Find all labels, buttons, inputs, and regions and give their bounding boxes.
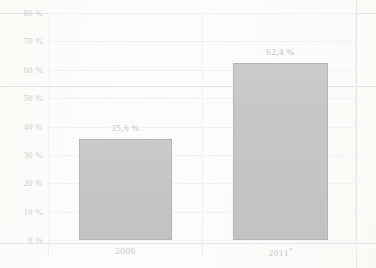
bar-2006: [79, 139, 172, 240]
y-axis-tick-label: 50 %: [9, 93, 43, 103]
y-axis-tick-label: 40 %: [9, 122, 43, 132]
bar-chart: 0 %10 %20 %30 %40 %50 %60 %70 %80 % 35,6…: [0, 0, 376, 268]
y-axis-tick-label: 20 %: [9, 178, 43, 188]
vertical-gridline: [48, 13, 49, 240]
page-rule-bottom: [0, 243, 376, 244]
vertical-gridline: [202, 13, 203, 240]
bar-value-label: 62,4 %: [233, 47, 328, 57]
footnote-marker: *: [289, 246, 292, 253]
bar-value-label: 35,6 %: [79, 123, 172, 133]
bar-sheen: [234, 64, 327, 239]
x-axis-category-label: 2006: [79, 246, 172, 256]
page-rule-right: [356, 0, 357, 268]
category-separator: [356, 240, 357, 256]
category-separator: [48, 240, 49, 256]
y-axis-tick-label: 10 %: [9, 207, 43, 217]
bar-sheen: [80, 140, 171, 239]
y-axis-tick-label: 60 %: [9, 65, 43, 75]
y-axis-tick-label: 70 %: [9, 36, 43, 46]
y-axis-tick-label: 0 %: [9, 235, 43, 245]
bar-2011: [233, 63, 328, 240]
y-axis-tick-label: 80 %: [9, 8, 43, 18]
category-separator: [202, 240, 203, 256]
y-axis-tick-label: 30 %: [9, 150, 43, 160]
vertical-gridline: [355, 13, 356, 240]
x-axis-category-label: 2011*: [233, 246, 328, 258]
